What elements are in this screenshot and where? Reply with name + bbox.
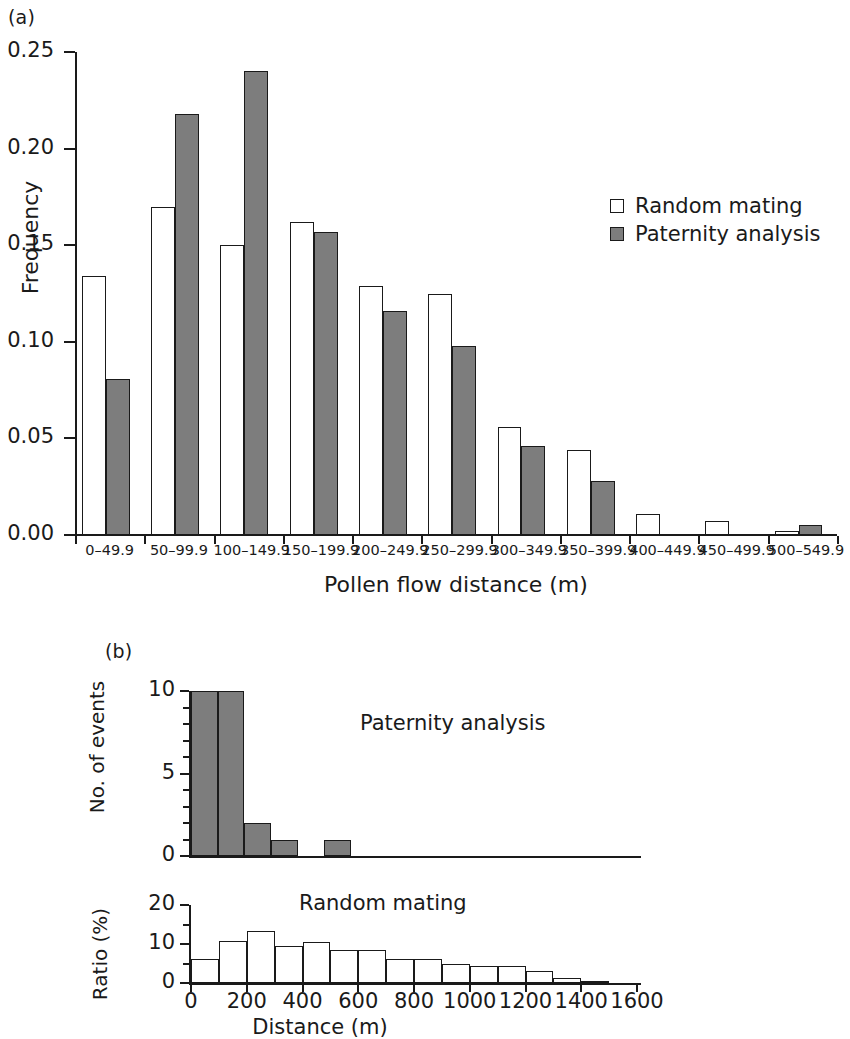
bar-paternity-analysis: [106, 379, 130, 535]
panel-a-legend: Random mating Paternity analysis: [610, 192, 821, 248]
panel-a-y-axis-title: Frequency: [18, 58, 43, 418]
bar-paternity-event: [191, 691, 218, 856]
panel-b-top-x-axis-line: [189, 856, 641, 858]
panel-b-top-y-tick-label: 5: [162, 760, 175, 784]
legend-swatch-icon-paternity-analysis: [610, 227, 624, 241]
legend-item-random-mating: Random mating: [610, 192, 821, 220]
bar-random-mating-ratio: [470, 966, 498, 983]
bar-paternity-analysis: [175, 114, 199, 535]
bar-paternity-analysis: [521, 446, 545, 535]
panel-a-x-tick-label: 350–399.9: [560, 542, 629, 558]
panel-a-y-tick: [64, 244, 75, 246]
bar-random-mating-ratio: [358, 950, 386, 983]
bar-random-mating: [220, 245, 244, 535]
bar-random-mating-ratio: [219, 941, 247, 983]
legend-label-paternity-analysis: Paternity analysis: [635, 222, 821, 246]
panel-b-top-y-tick: [180, 855, 189, 857]
bar-paternity-event: [271, 840, 298, 857]
panel-b-top-y-minor-tick: [183, 789, 189, 791]
panel-a-x-tick-label: 450–499.9: [698, 542, 767, 558]
panel-a-plot-area: [75, 52, 837, 535]
panel-b-bottom-x-axis-title: Distance (m): [155, 1015, 485, 1039]
panel-b-bottom-y-tick: [180, 943, 189, 945]
bar-paternity-analysis: [591, 481, 615, 535]
bar-random-mating: [151, 207, 175, 535]
panel-b-top-y-minor-tick: [183, 740, 189, 742]
bar-random-mating: [82, 276, 106, 535]
panel-a-x-tick-label: 0–49.9: [75, 542, 144, 558]
legend-label-random-mating: Random mating: [635, 194, 803, 218]
panel-b-bottom-y-minor-tick: [183, 963, 189, 965]
panel-b-top-chart-title: Paternity analysis: [360, 711, 546, 735]
panel-b-top-y-minor-tick: [183, 756, 189, 758]
panel-a-y-tick-label: 0.00: [7, 521, 54, 545]
panel-b-bottom-y-axis-title: Ratio (%): [88, 864, 112, 1039]
panel-b-top-plot-area: [191, 691, 351, 856]
bar-random-mating: [498, 427, 522, 535]
panel-b-bottom-y-tick-label: 20: [148, 891, 175, 915]
bar-random-mating-ratio: [330, 950, 358, 983]
panel-b-label: (b): [105, 640, 133, 662]
bar-random-mating-ratio: [498, 966, 526, 983]
bar-random-mating: [567, 450, 591, 535]
panel-a-y-tick: [64, 341, 75, 343]
panel-a: (a) 0.000.050.100.150.200.25 0–49.950–99…: [0, 0, 850, 615]
panel-a-x-tick-label: 250–299.9: [421, 542, 490, 558]
bar-random-mating-ratio: [247, 931, 275, 983]
panel-a-x-axis-title: Pollen flow distance (m): [75, 572, 837, 597]
bar-paternity-analysis: [452, 346, 476, 535]
panel-a-y-tick: [64, 437, 75, 439]
panel-a-x-tick-label: 300–349.9: [491, 542, 560, 558]
bar-random-mating: [428, 294, 452, 536]
bar-random-mating-ratio: [191, 959, 219, 983]
bar-random-mating-ratio: [581, 981, 609, 983]
panel-b-top-y-tick-label: 10: [148, 677, 175, 701]
panel-a-y-tick-label: 0.05: [7, 424, 54, 448]
panel-b-top-y-tick: [180, 773, 189, 775]
bar-paternity-analysis: [799, 525, 823, 535]
panel-b-bottom-x-tick-label: 1600: [597, 989, 677, 1013]
legend-swatch-icon-random-mating: [610, 199, 624, 213]
panel-a-y-tick: [64, 148, 75, 150]
bar-paternity-analysis: [244, 71, 268, 535]
panel-b-bottom-x-axis-line: [189, 983, 641, 985]
bar-random-mating-ratio: [553, 978, 581, 983]
bar-paternity-event: [218, 691, 245, 856]
panel-b-bottom-plot-area: [191, 905, 637, 983]
bar-random-mating: [775, 531, 799, 535]
bar-random-mating: [290, 222, 314, 535]
panel-a-x-tick-label: 100–149.9: [214, 542, 283, 558]
bar-random-mating-ratio: [442, 964, 470, 983]
bar-paternity-analysis: [383, 311, 407, 535]
panel-a-x-tick-label: 400–449.9: [629, 542, 698, 558]
panel-b-bottom-y-tick: [180, 904, 189, 906]
panel-b-top-y-minor-tick: [183, 707, 189, 709]
panel-b-top-y-minor-tick: [183, 806, 189, 808]
legend-item-paternity-analysis: Paternity analysis: [610, 220, 821, 248]
panel-b-top-y-axis-title: No. of events: [85, 647, 109, 847]
bar-random-mating: [636, 514, 660, 535]
panel-a-x-tick-label: 150–199.9: [283, 542, 352, 558]
panel-a-y-tick: [64, 534, 75, 536]
bar-random-mating-ratio: [275, 946, 303, 983]
panel-b-top-y-minor-tick: [183, 839, 189, 841]
bar-random-mating: [359, 286, 383, 535]
bar-paternity-event: [324, 840, 351, 857]
bar-random-mating-ratio: [414, 959, 442, 983]
panel-b-bottom-y-tick: [180, 982, 189, 984]
panel-b-top-y-minor-tick: [183, 822, 189, 824]
panel-a-x-tick-label: 200–249.9: [352, 542, 421, 558]
bar-random-mating-ratio: [303, 942, 331, 983]
panel-a-x-tick-label: 500–549.9: [768, 542, 837, 558]
panel-b-top-y-tick-label: 0: [162, 842, 175, 866]
panel-b-bottom-y-tick-label: 10: [148, 930, 175, 954]
bar-paternity-analysis: [314, 232, 338, 535]
bar-random-mating-ratio: [386, 959, 414, 983]
panel-b-top-y-tick: [180, 690, 189, 692]
bar-random-mating-ratio: [526, 971, 554, 983]
panel-a-x-tick-label: 50–99.9: [144, 542, 213, 558]
panel-a-label: (a): [8, 6, 35, 28]
bar-random-mating: [705, 521, 729, 535]
bar-paternity-event: [244, 823, 271, 856]
panel-b-top-y-minor-tick: [183, 723, 189, 725]
